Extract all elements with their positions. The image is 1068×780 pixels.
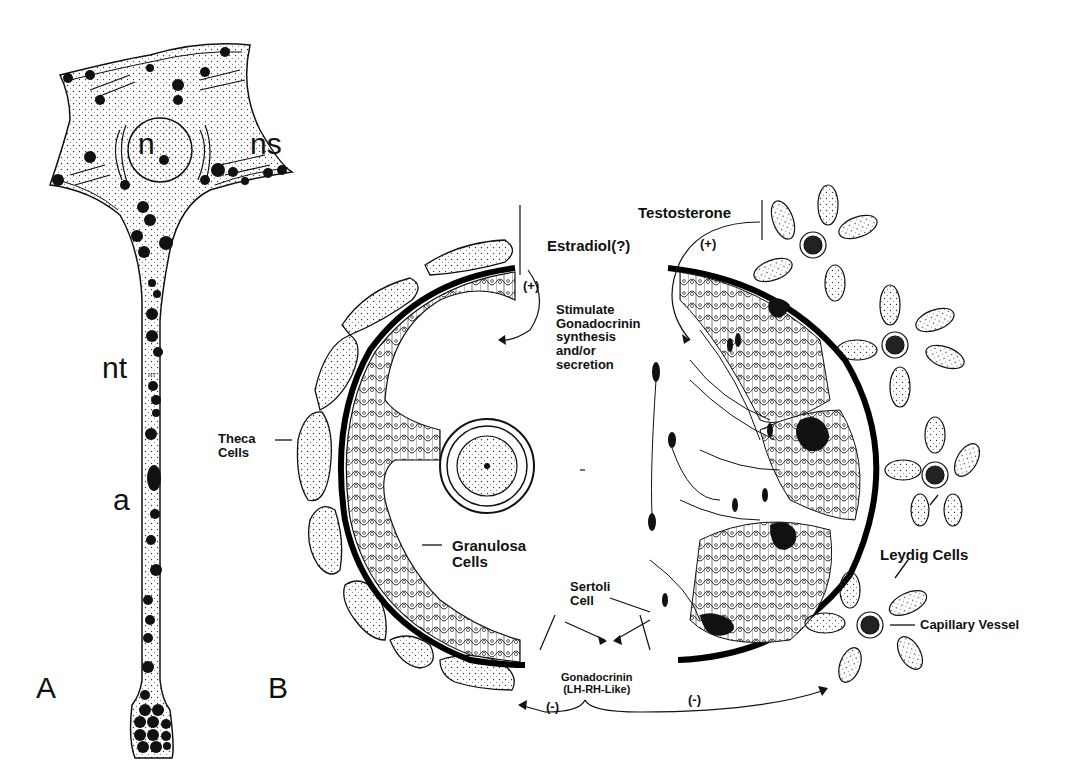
label-inhibit-left: (-) (546, 700, 559, 714)
label-estradiol: Estradiol(?) (547, 238, 630, 254)
diagram-artwork (0, 0, 1068, 780)
label-capillary-vessel: Capillary Vessel (920, 618, 1019, 632)
label-gonadocrinin: Gonadocrinin (LH-RH-Like) (561, 672, 633, 695)
label-nucleus: n (138, 128, 155, 160)
label-neurosecretory-soma: ns (250, 128, 282, 160)
label-leydig-cells: Leydig Cells (880, 547, 968, 563)
label-granulosa-cells: Granulosa Cells (452, 538, 526, 570)
label-estradiol-effect: (+) (523, 279, 539, 293)
panel-label-a: A (36, 672, 56, 704)
label-stimulate-gonadocrinin: Stimulate Gonadocrinin synthesis and/or … (556, 303, 641, 371)
label-testosterone: Testosterone (638, 205, 731, 221)
panel-label-b: B (268, 672, 288, 704)
label-axon: a (113, 484, 130, 516)
label-inhibit-right: (-) (688, 693, 701, 707)
label-theca-cells: Theca Cells (218, 432, 256, 459)
label-testosterone-effect: (+) (700, 237, 716, 251)
label-nerve-tract: nt (102, 352, 127, 384)
label-inner-tract: NT (148, 372, 156, 378)
label-sertoli-cell: Sertoli Cell (570, 580, 610, 607)
ovary-follicle-drawing (297, 240, 534, 690)
